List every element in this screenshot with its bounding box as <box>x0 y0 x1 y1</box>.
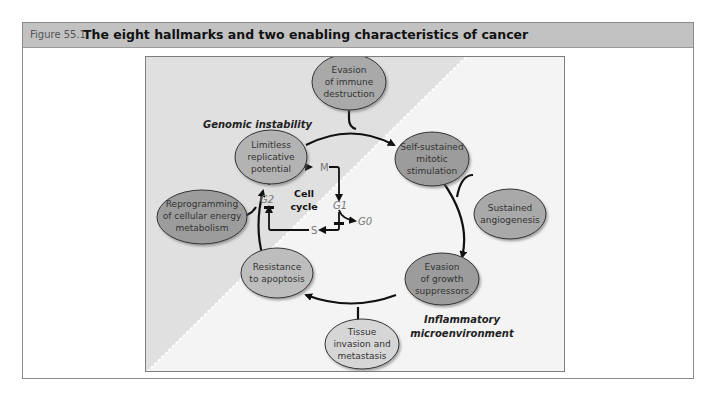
svg-text:Resistance: Resistance <box>253 262 302 272</box>
hallmarks-diagram: Genomic instability Inflammatory microen… <box>145 56 565 372</box>
cell-cycle-label-line2: cycle <box>290 201 317 212</box>
svg-text:Self-sustained: Self-sustained <box>400 142 463 152</box>
phase-g2: G2 <box>260 194 274 205</box>
svg-text:suppressors: suppressors <box>415 286 469 296</box>
svg-text:angiogenesis: angiogenesis <box>480 215 540 225</box>
inflammatory-label-line1: Inflammatory <box>424 314 501 325</box>
hallmark-angiogenesis: Sustained angiogenesis <box>474 189 546 239</box>
svg-text:Limitless: Limitless <box>251 140 291 150</box>
phase-m: M <box>320 162 329 173</box>
svg-text:invasion and: invasion and <box>333 339 390 349</box>
svg-text:metabolism: metabolism <box>175 223 228 233</box>
svg-text:Sustained: Sustained <box>488 203 533 213</box>
svg-text:of growth: of growth <box>421 274 464 284</box>
hallmark-replicative: Limitless replicative potential <box>235 130 307 184</box>
phase-s: S <box>311 225 317 236</box>
svg-text:Tissue: Tissue <box>347 327 377 337</box>
svg-text:mitotic: mitotic <box>416 154 447 164</box>
cell-cycle-label-line1: Cell <box>294 188 314 199</box>
g1-checkpoint-icon <box>334 222 344 225</box>
phase-g0: G0 <box>358 216 372 227</box>
svg-text:of immune: of immune <box>325 77 374 87</box>
svg-text:to apoptosis: to apoptosis <box>249 274 305 284</box>
inflammatory-label-line2: microenvironment <box>410 328 515 339</box>
svg-text:Reprogramming: Reprogramming <box>166 199 239 209</box>
hallmark-apoptosis: Resistance to apoptosis <box>241 248 313 298</box>
figure-title: The eight hallmarks and two enabling cha… <box>83 27 528 42</box>
figure-header: Figure 55.1 The eight hallmarks and two … <box>23 23 693 48</box>
genomic-instability-label: Genomic instability <box>203 119 312 130</box>
hallmark-immune: Evasion of immune destruction <box>312 57 386 110</box>
svg-text:Evasion: Evasion <box>425 262 460 272</box>
hallmark-metabolism: Reprogramming of cellular energy metabol… <box>157 190 247 244</box>
hallmark-invasion: Tissue invasion and metastasis <box>325 319 399 369</box>
g2-checkpoint-icon <box>264 206 274 209</box>
hallmark-mitotic: Self-sustained mitotic stimulation <box>395 132 469 186</box>
svg-text:potential: potential <box>251 164 291 174</box>
figure-number: Figure 55.1 <box>30 29 86 40</box>
svg-text:replicative: replicative <box>247 152 295 162</box>
svg-text:destruction: destruction <box>323 89 374 99</box>
svg-text:Evasion: Evasion <box>332 65 367 75</box>
svg-text:metastasis: metastasis <box>338 351 387 361</box>
hallmark-growth-suppressors: Evasion of growth suppressors <box>405 253 479 305</box>
svg-text:stimulation: stimulation <box>407 166 457 176</box>
phase-g1: G1 <box>333 200 347 211</box>
svg-text:of cellular energy: of cellular energy <box>163 211 242 221</box>
